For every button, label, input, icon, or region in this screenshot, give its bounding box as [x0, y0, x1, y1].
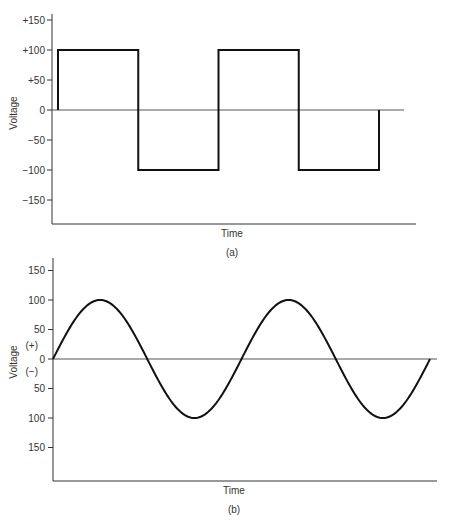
y-tick-label: 150: [28, 265, 45, 276]
chart-a-x-axis-title: Time: [221, 228, 243, 239]
chart-a-y-axis-title: Voltage: [8, 96, 19, 130]
y-tick-label: −50: [28, 135, 45, 146]
chart-b-y-axis-title: Voltage: [8, 345, 19, 379]
y-tick-label: 0: [39, 105, 45, 116]
y-tick-label: +100: [22, 45, 45, 56]
y-tick-label: 50: [34, 383, 46, 394]
y-tick-label: 100: [28, 295, 45, 306]
chart-b-x-axis-title: Time: [223, 485, 245, 496]
chart-a-y-ticks: +150+100+500−50−100−150: [22, 15, 52, 206]
y-tick-label: +50: [28, 75, 45, 86]
figure: +150+100+500−50−100−150 Voltage Time (a)…: [0, 0, 449, 527]
y-tick-label: 100: [28, 413, 45, 424]
chart-a: +150+100+500−50−100−150 Voltage Time (a): [8, 14, 416, 258]
y-tick-label: 50: [34, 324, 46, 335]
chart-b-polarity-positive: (+): [26, 340, 39, 351]
chart-b-polarity-negative: (−): [26, 366, 39, 377]
chart-b: 15010050050100150 Voltage (+) (−) Time (…: [8, 258, 437, 515]
y-tick-label: −100: [22, 165, 45, 176]
chart-a-caption: (a): [226, 247, 238, 258]
chart-b-caption: (b): [228, 504, 240, 515]
chart-b-y-ticks: 15010050050100150: [28, 265, 53, 453]
y-tick-label: −150: [22, 195, 45, 206]
y-tick-label: 0: [39, 354, 45, 365]
y-tick-label: 150: [28, 442, 45, 453]
y-tick-label: +150: [22, 15, 45, 26]
